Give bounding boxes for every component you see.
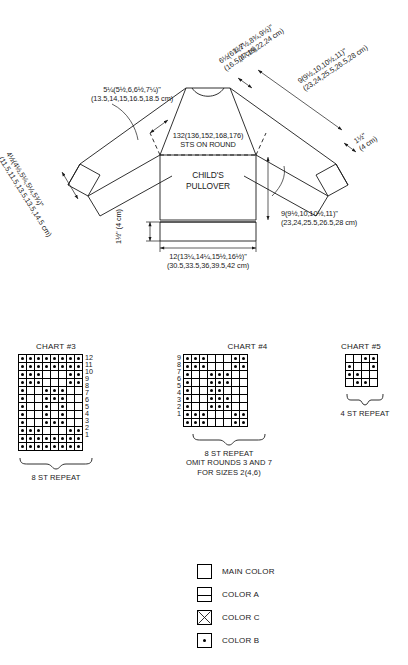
right-sleeve-top [230, 88, 336, 164]
color-legend: MAIN COLOR COLOR A COLOR C COLOR B [197, 560, 275, 652]
cell-color-b [43, 395, 51, 403]
chart-row [184, 419, 248, 427]
cell-color-b [67, 379, 75, 387]
cell-color-b [59, 355, 67, 363]
cell-main-color [75, 403, 83, 411]
color-a-label: COLOR A [222, 590, 259, 599]
cell-main-color [192, 403, 200, 411]
chart-row [184, 379, 248, 387]
x-cross-icon [198, 611, 211, 624]
cell-color-b [208, 387, 216, 395]
body-length-cm: (23,24,25.5,26.5,28 cm) [281, 218, 357, 227]
cell-color-b [216, 387, 224, 395]
cell-main-color [200, 379, 208, 387]
chart-row [184, 387, 248, 395]
cell-main-color [59, 371, 67, 379]
cell-main-color [35, 387, 43, 395]
cell-main-color [232, 379, 240, 387]
cell-color-b [362, 355, 370, 363]
cell-main-color [240, 371, 248, 379]
cell-main-color [362, 363, 370, 371]
caption-line: FOR SIZES 2(4,6) [154, 468, 304, 477]
cell-color-b [184, 371, 192, 379]
chart-4-repeat-brace [191, 433, 267, 446]
chart-row [19, 371, 83, 379]
cell-main-color [75, 395, 83, 403]
cell-main-color [200, 403, 208, 411]
cell-color-b [240, 355, 248, 363]
cell-main-color [232, 395, 240, 403]
cell-color-b [75, 379, 83, 387]
cell-main-color [35, 411, 43, 419]
sleeve-upper-dimension [238, 78, 252, 88]
chart-4-row-numbers: 987654321 [177, 354, 181, 417]
cell-main-color [346, 355, 354, 363]
cell-main-color [27, 395, 35, 403]
cell-color-b [184, 363, 192, 371]
cell-color-b [200, 355, 208, 363]
cell-main-color [208, 355, 216, 363]
chart-row [19, 443, 83, 451]
chart-4-title: CHART #4 [191, 342, 304, 351]
cell-color-b [19, 395, 27, 403]
cell-color-b [75, 427, 83, 435]
cell-color-b [19, 419, 27, 427]
cell-color-b [192, 411, 200, 419]
cell-color-b [216, 403, 224, 411]
chart-3-block: CHART #3 121110987654321 8 ST REPEAT [18, 342, 94, 482]
cell-color-b [192, 363, 200, 371]
cell-main-color [27, 411, 35, 419]
cell-color-b [184, 403, 192, 411]
cell-main-color [208, 419, 216, 427]
chart-row [19, 379, 83, 387]
cell-main-color [240, 403, 248, 411]
cell-main-color [51, 411, 59, 419]
cell-main-color [208, 411, 216, 419]
cell-main-color [232, 371, 240, 379]
cell-color-b [19, 427, 27, 435]
cell-color-b [67, 371, 75, 379]
shoulder-measurement-label: 5¼(5½,6,6½,7¼)" (13.5,14,15,16.5,18.5 cm… [57, 85, 207, 103]
sts-on-round-text: STS ON ROUND [167, 140, 249, 149]
cell-main-color [27, 387, 35, 395]
cell-color-b [35, 435, 43, 443]
sts-on-round-label: 132(136,152,168,176) STS ON ROUND [167, 131, 249, 149]
cell-color-b [51, 419, 59, 427]
cell-main-color [200, 387, 208, 395]
shoulder-leader-line [112, 104, 138, 140]
cell-main-color [51, 379, 59, 387]
cell-color-b [35, 371, 43, 379]
cell-color-b [51, 355, 59, 363]
cell-main-color [224, 355, 232, 363]
cell-color-b [184, 395, 192, 403]
cell-main-color [27, 419, 35, 427]
cell-color-b [67, 435, 75, 443]
cell-color-b [216, 379, 224, 387]
cell-main-color [67, 411, 75, 419]
chart-3-repeat-brace [18, 457, 94, 470]
chart-row [19, 363, 83, 371]
chart-row [19, 387, 83, 395]
chart-row-number: 1 [177, 410, 181, 417]
cell-main-color [192, 387, 200, 395]
chart-3-caption: 8 ST REPEAT [18, 473, 94, 482]
cell-color-b [232, 363, 240, 371]
cell-color-b [19, 363, 27, 371]
chart-row [346, 371, 378, 379]
chart-5-block: CHART #5 4 ST REPEAT [333, 342, 399, 418]
cell-color-b [346, 363, 354, 371]
color-c-swatch [197, 610, 212, 625]
cell-main-color [232, 403, 240, 411]
color-b-swatch [197, 633, 212, 648]
chart-row [19, 403, 83, 411]
cell-color-b [59, 419, 67, 427]
cell-color-b [208, 403, 216, 411]
cell-color-b [43, 411, 51, 419]
cell-main-color [362, 371, 370, 379]
color-b-label: COLOR B [222, 636, 259, 645]
cell-color-b [208, 379, 216, 387]
chart-row [184, 355, 248, 363]
cell-color-b [232, 355, 240, 363]
cell-main-color [224, 419, 232, 427]
cell-main-color [43, 371, 51, 379]
